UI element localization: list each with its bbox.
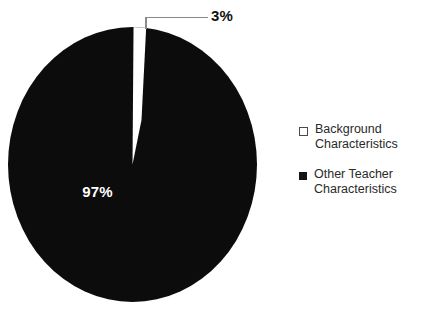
legend-label-line-1: Background [315,122,398,137]
legend-item-other-teacher-characteristics[interactable]: Other Teacher Characteristics [299,167,427,197]
legend-label-line-1: Other Teacher [314,167,397,182]
slice-value-label-background-characteristics: 3% [211,7,233,25]
hollow-square-marker-icon [299,127,308,136]
legend-label-line-2: Characteristics [314,182,397,197]
chart-legend: Background Characteristics Other Teacher… [299,122,427,212]
legend-label-line-2: Characteristics [315,137,398,152]
filled-square-marker-icon [299,172,307,180]
legend-item-label: Other Teacher Characteristics [314,167,397,197]
legend-item-background-characteristics[interactable]: Background Characteristics [299,122,427,152]
legend-item-label: Background Characteristics [315,122,398,152]
pie-chart: 97% 3% Background Characteristics Other … [0,0,429,318]
leader-line [146,18,208,29]
